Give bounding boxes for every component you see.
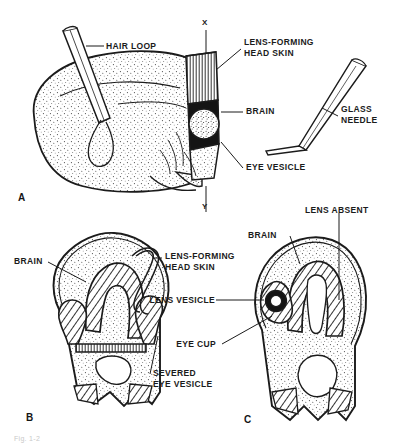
panel-letter-c: C (244, 414, 252, 425)
label-lens-forming-head-skin-a: LENS-FORMING HEAD SKIN (244, 37, 314, 58)
label-severed-eye-vesicle: SEVERED EYE VESICLE (153, 368, 213, 389)
label-brain-a: BRAIN (246, 106, 275, 116)
label-lens-absent: LENS ABSENT (305, 205, 369, 215)
panel-b-illustration (48, 233, 169, 406)
embryo-body (34, 51, 202, 192)
label-lens-forming-head-skin-b: LENS-FORMING HEAD SKIN (165, 251, 235, 272)
label-brain-c: BRAIN (248, 230, 277, 240)
label-eye-cup: EYE CUP (152, 339, 216, 349)
figure-caption: Fig. 1-2 (14, 435, 40, 442)
label-eye-vesicle-a: EYE VESICLE (246, 162, 306, 172)
label-lens-vesicle: LENS VESICLE (141, 295, 215, 305)
panel-letter-b: B (26, 412, 34, 423)
figure-root: X Y HAIR LOOP LENS-FORMING HEAD SKIN BRA… (0, 0, 396, 445)
panel-a-illustration (34, 27, 366, 212)
label-hair-loop: HAIR LOOP (106, 41, 156, 51)
label-glass-needle: GLASS NEEDLE (341, 104, 378, 125)
panel-letter-a: A (18, 192, 26, 203)
panel-c-illustration (216, 213, 366, 420)
section-marker-x: X (202, 18, 208, 27)
section-marker-y: Y (202, 202, 208, 211)
label-brain-b: BRAIN (14, 256, 43, 266)
eye-cup-and-lens-vesicle-c (261, 282, 293, 323)
